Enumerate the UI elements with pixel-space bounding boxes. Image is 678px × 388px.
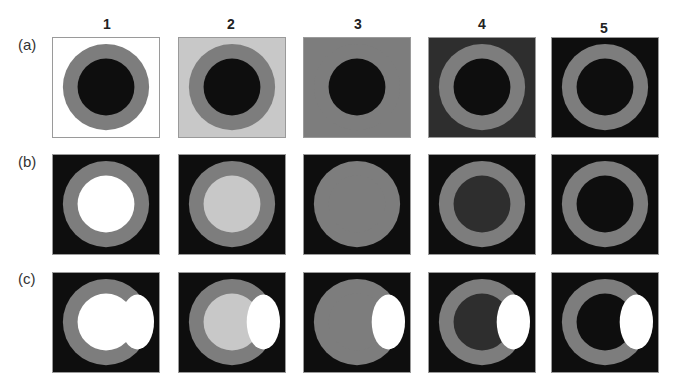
row-label-b: (b) [18, 153, 36, 170]
ring-stimulus-icon [304, 155, 410, 254]
panel-a-4 [428, 37, 536, 138]
ring-stimulus-icon [429, 273, 535, 372]
column-label-5: 5 [594, 20, 614, 36]
panel-b-5 [551, 154, 659, 255]
panel-a-3 [303, 37, 411, 138]
panel-c-1 [52, 272, 160, 373]
ring-stimulus-icon [179, 155, 285, 254]
panel-c-3 [303, 272, 411, 373]
ring-stimulus-icon [552, 273, 658, 372]
ring-stimulus-icon [304, 273, 410, 372]
ring-stimulus-icon [552, 155, 658, 254]
row-label-a: (a) [18, 36, 36, 53]
panel-c-4 [428, 272, 536, 373]
ring-stimulus-icon [304, 38, 410, 137]
panel-c-2 [178, 272, 286, 373]
ring-stimulus-icon [179, 273, 285, 372]
panel-a-5 [551, 37, 659, 138]
ring-stimulus-icon [53, 273, 159, 372]
row-label-c: (c) [18, 270, 36, 287]
column-label-3: 3 [348, 16, 368, 32]
panel-b-1 [52, 154, 160, 255]
ring-stimulus-icon [53, 155, 159, 254]
column-label-2: 2 [221, 16, 241, 32]
ring-stimulus-icon [429, 38, 535, 137]
ring-stimulus-icon [179, 38, 285, 137]
ring-stimulus-icon [429, 155, 535, 254]
ring-stimulus-icon [552, 38, 658, 137]
ring-stimulus-icon [53, 38, 159, 137]
panel-c-5 [551, 272, 659, 373]
panel-b-3 [303, 154, 411, 255]
panel-b-2 [178, 154, 286, 255]
panel-a-2 [178, 37, 286, 138]
column-label-1: 1 [97, 16, 117, 32]
column-label-4: 4 [472, 16, 492, 32]
panel-a-1 [52, 37, 160, 138]
panel-b-4 [428, 154, 536, 255]
